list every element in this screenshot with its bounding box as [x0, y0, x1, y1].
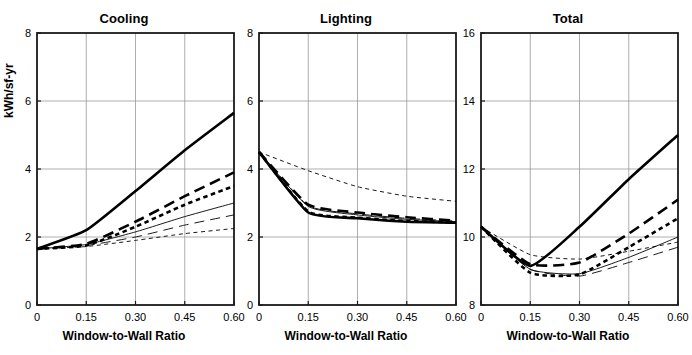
y-tick-label: 16 — [463, 27, 475, 39]
plot-area-lighting: 0246800.150.300.450.60 — [222, 0, 470, 355]
figure-root: CoolingkWh/sf-yrWindow-to-Wall Ratio0246… — [0, 0, 692, 355]
y-tick-label: 2 — [247, 231, 253, 243]
x-tick-label: 0 — [34, 311, 40, 323]
gridlines — [481, 33, 678, 305]
x-tick-label: 0.60 — [667, 311, 688, 323]
y-tick-label: 12 — [463, 163, 475, 175]
panel-cooling: CoolingkWh/sf-yrWindow-to-Wall Ratio0246… — [0, 0, 248, 355]
gridlines — [259, 33, 456, 305]
y-tick-label: 8 — [25, 27, 31, 39]
panel-lighting: LightingWindow-to-Wall Ratio0246800.150.… — [222, 0, 470, 355]
y-tick-label: 0 — [25, 299, 31, 311]
x-tick-label: 0.45 — [618, 311, 639, 323]
x-tick-label: 0.15 — [298, 311, 319, 323]
y-tick-label: 8 — [247, 27, 253, 39]
y-tick-label: 6 — [247, 95, 253, 107]
x-tick-label: 0.30 — [125, 311, 146, 323]
x-tick-label: 0.30 — [569, 311, 590, 323]
x-tick-label: 0.45 — [174, 311, 195, 323]
plot-area-total: 81012141600.150.300.450.60 — [444, 0, 692, 355]
x-tick-label: 0 — [478, 311, 484, 323]
x-tick-label: 0 — [256, 311, 262, 323]
y-axis-ticks: 02468 — [25, 27, 41, 311]
x-tick-label: 0.15 — [76, 311, 97, 323]
x-tick-label: 0.45 — [396, 311, 417, 323]
x-tick-label: 0.30 — [347, 311, 368, 323]
y-tick-label: 4 — [247, 163, 253, 175]
plot-area-cooling: 0246800.150.300.450.60 — [0, 0, 248, 355]
y-axis-ticks: 02468 — [247, 27, 263, 311]
x-tick-label: 0.15 — [520, 311, 541, 323]
y-tick-label: 2 — [25, 231, 31, 243]
y-tick-label: 8 — [469, 299, 475, 311]
panel-total: TotalWindow-to-Wall Ratio81012141600.150… — [444, 0, 692, 355]
y-tick-label: 4 — [25, 163, 31, 175]
y-tick-label: 10 — [463, 231, 475, 243]
y-tick-label: 0 — [247, 299, 253, 311]
y-tick-label: 6 — [25, 95, 31, 107]
gridlines — [37, 33, 234, 305]
y-tick-label: 14 — [463, 95, 475, 107]
